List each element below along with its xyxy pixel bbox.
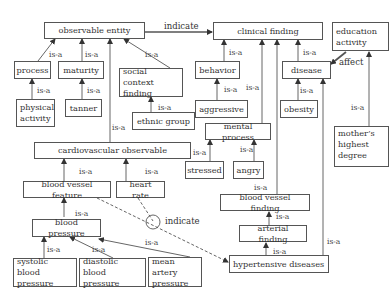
node-diastolic-blood-pressure: diastolic blood pressure	[79, 258, 146, 287]
node-maturity: maturity	[58, 61, 104, 79]
node-hypertensive-diseases: hypertensive diseases	[229, 255, 329, 273]
node-label: clinical finding	[237, 26, 299, 37]
edge-label-is-a: is-a	[224, 85, 237, 94]
node-mean-artery-pressure: mean artery pressure	[148, 257, 202, 287]
edge-label-is-a: is-a	[87, 86, 100, 95]
edge-label-is-a: is-a	[75, 209, 88, 218]
node-angry: angry	[233, 161, 264, 179]
edge-label-is-a: is-a	[300, 86, 313, 95]
edge-label-is-a: is-a	[193, 148, 206, 157]
node-behavior: behavior	[195, 61, 240, 79]
edge-label-is-a: is-a	[145, 167, 158, 176]
node-label: process	[17, 65, 49, 76]
edge-label-indicate-dashed: indicate	[165, 217, 200, 226]
edge-label-is-a: is-a	[273, 247, 286, 256]
node-mothers-highest-degree: mother’s highest degree	[334, 126, 389, 167]
edge-label-is-a: is-a	[327, 237, 340, 246]
node-label: behavior	[199, 65, 235, 76]
node-process: process	[14, 61, 51, 79]
edge-label-is-a: is-a	[158, 103, 171, 112]
node-blood-vessel-finding: blood vessel finding	[220, 194, 310, 211]
node-label: aggressive	[199, 104, 244, 115]
node-arterial-finding: arterial finding	[239, 225, 307, 242]
node-label: observable entity	[59, 25, 131, 36]
node-mental-process: mental process	[205, 123, 271, 140]
node-label: stressed	[187, 165, 222, 176]
edge-label-is-a: is-a	[145, 238, 158, 247]
node-label: tanner	[70, 103, 97, 114]
edge-label-is-a: is-a	[276, 212, 289, 221]
edge-label-is-a: is-a	[145, 50, 158, 59]
node-label: blood vessel feature	[27, 179, 107, 201]
edge-label-is-a: is-a	[37, 86, 50, 95]
node-label: blood pressure	[36, 217, 97, 239]
node-label: physical activity	[20, 102, 54, 124]
node-label: maturity	[63, 65, 99, 76]
node-observable-entity: observable entity	[44, 22, 145, 39]
node-label: mother’s highest degree	[338, 128, 385, 161]
node-label: angry	[237, 165, 261, 176]
node-systolic-blood-pressure: systolic blood pressure	[13, 258, 77, 287]
node-label: hypertensive diseases	[233, 259, 324, 270]
node-label: diastolic blood pressure	[83, 256, 142, 289]
node-label: blood vessel finding	[224, 192, 306, 214]
edge-label-is-a: is-a	[254, 183, 267, 192]
node-clinical-finding: clinical finding	[213, 22, 323, 40]
edge-label-is-a: is-a	[49, 50, 62, 59]
edge-label-is-a: is-a	[47, 245, 60, 254]
node-label: mental process	[209, 121, 267, 143]
node-label: ethnic group	[137, 116, 190, 127]
node-label: heart rate	[120, 179, 161, 201]
node-label: arterial finding	[243, 223, 303, 245]
edge-label-indicate: indicate	[164, 22, 199, 31]
edge-label-is-a: is-a	[85, 50, 98, 59]
node-physical-activity: physical activity	[16, 99, 55, 127]
node-disease: disease	[282, 61, 331, 79]
node-label: disease	[291, 65, 322, 76]
ontology-diagram: observable entity clinical finding educa…	[0, 0, 391, 292]
node-blood-vessel-feature: blood vessel feature	[23, 181, 111, 198]
node-ethnic-group: ethnic group	[132, 112, 195, 130]
edge-label-is-a: is-a	[92, 245, 105, 254]
edge-label-affect: affect	[339, 58, 363, 67]
edge-label-is-a: is-a	[112, 123, 125, 132]
node-social-context-finding: social context finding	[119, 68, 183, 97]
node-aggressive: aggressive	[195, 100, 248, 118]
node-cardiovascular-observable: cardiovascular observable	[34, 142, 191, 159]
edge-label-is-a: is-a	[351, 103, 364, 112]
node-blood-pressure: blood pressure	[32, 219, 101, 237]
node-label: mean artery pressure	[152, 256, 198, 289]
edge-label-is-a: is-a	[246, 83, 259, 92]
node-label: education activity	[336, 26, 385, 48]
edge-label-is-a: is-a	[303, 48, 316, 57]
node-label: cardiovascular observable	[58, 145, 167, 156]
node-label: systolic blood pressure	[17, 256, 73, 289]
edge-label-is-a: is-a	[79, 167, 92, 176]
node-label: social context finding	[123, 66, 179, 99]
node-education-activity: education activity	[332, 22, 389, 51]
edge-label-is-a: is-a	[229, 48, 242, 57]
edge-label-is-a: is-a	[240, 145, 253, 154]
node-tanner: tanner	[65, 99, 102, 117]
node-stressed: stressed	[185, 161, 224, 179]
node-obesity: obesity	[280, 100, 318, 118]
node-heart-rate: heart rate	[116, 181, 165, 198]
node-label: obesity	[284, 104, 314, 115]
